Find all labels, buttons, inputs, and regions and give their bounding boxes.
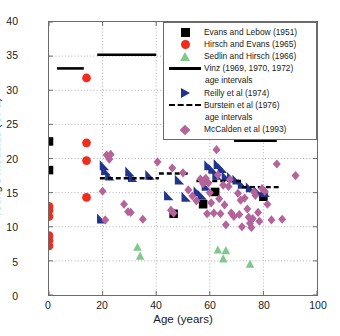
data-point [168, 163, 176, 172]
data-point [203, 209, 211, 218]
legend-entry-7: age intervals [166, 111, 313, 123]
legend-key-triangle-right-icon [166, 87, 204, 99]
data-point [133, 243, 142, 251]
chart-legend: Evans and Lebow (1951)Hirsch and Evans (… [163, 22, 317, 140]
legend-label: Burstein et al (1976) [204, 101, 279, 110]
legend-entry-3: Vinz (1969, 1970, 1972) [166, 63, 313, 75]
chart-figure: Young's modulus (GPa) 0510152025303540 0… [0, 0, 340, 336]
data-point [214, 245, 223, 253]
legend-swatch [181, 40, 190, 49]
data-point [139, 215, 147, 224]
legend-key-triangle-up-icon [166, 50, 204, 62]
x-tick-60: 60 [204, 299, 216, 311]
y-tick-25: 25 [6, 118, 18, 130]
series-triangle-up [133, 243, 254, 268]
data-point [267, 215, 275, 224]
legend-label: Reilly et al (1974) [204, 89, 269, 98]
x-tick-0: 0 [45, 299, 51, 311]
data-point [254, 208, 262, 217]
data-point [218, 163, 227, 173]
legend-entry-4: age intervals [166, 75, 313, 87]
data-point [82, 193, 91, 202]
legend-label: McCalden et al (1993) [204, 125, 286, 134]
legend-swatch [169, 104, 201, 106]
y-axis-label: Young's modulus (GPa) [0, 58, 2, 258]
data-point [164, 190, 173, 200]
data-point [136, 252, 145, 260]
y-tick-30: 30 [6, 84, 18, 96]
data-point [99, 187, 107, 196]
data-point [179, 168, 187, 177]
y-tick-40: 40 [6, 15, 18, 27]
y-tick-15: 15 [6, 187, 18, 199]
data-point [292, 171, 300, 180]
legend-label: age intervals [204, 113, 253, 122]
data-point [263, 200, 271, 209]
legend-key-solid-line-icon [166, 63, 204, 75]
data-point [210, 209, 218, 218]
data-point [213, 145, 221, 154]
legend-swatch [180, 124, 191, 135]
data-point [120, 200, 128, 209]
data-point [217, 209, 225, 218]
data-point [49, 241, 53, 250]
x-axis-label: Age (years) [153, 313, 212, 325]
legend-key-diamond-icon [166, 124, 204, 136]
legend-label: Evans and Lebow (1951) [204, 28, 297, 37]
legend-key-square-icon [166, 26, 204, 38]
data-point [222, 246, 231, 254]
data-point [238, 222, 246, 231]
legend-swatch [181, 88, 190, 98]
data-point [82, 74, 91, 83]
x-tick-20: 20 [96, 299, 108, 311]
data-point [219, 254, 228, 262]
y-tick-10: 10 [6, 221, 18, 233]
legend-swatch [169, 67, 201, 69]
y-tick-35: 35 [6, 49, 18, 61]
data-point [207, 198, 215, 207]
legend-label: age intervals [204, 76, 253, 85]
data-point [255, 217, 263, 226]
data-point [243, 204, 251, 213]
series-circle [49, 74, 91, 251]
data-point [225, 182, 233, 191]
x-tick-100: 100 [309, 299, 327, 311]
y-tick-5: 5 [12, 256, 18, 268]
y-tick-0: 0 [12, 290, 18, 302]
legend-entry-2: Sedlin and Hirsch (1966) [166, 50, 313, 62]
legend-entry-5: Reilly et al (1974) [166, 87, 313, 99]
legend-label: Vinz (1969, 1970, 1972) [204, 64, 293, 73]
legend-label: Hirsch and Evans (1965) [204, 40, 296, 49]
data-point [273, 159, 281, 168]
data-point [222, 220, 230, 229]
legend-entry-8: McCalden et al (1993) [166, 124, 313, 136]
legend-entry-6: Burstein et al (1976) [166, 99, 313, 111]
legend-swatch [180, 52, 190, 61]
data-point [82, 138, 91, 147]
series-triangle-right [97, 159, 270, 224]
y-tick-20: 20 [6, 153, 18, 165]
data-point [199, 200, 208, 209]
legend-swatch [181, 28, 190, 37]
legend-label: Sedlin and Hirsch (1966) [204, 52, 296, 61]
legend-key-circle-icon [166, 38, 204, 50]
data-point [49, 212, 53, 221]
data-point [198, 190, 207, 200]
data-point [278, 215, 286, 224]
data-point [221, 200, 229, 209]
legend-entry-1: Hirsch and Evans (1965) [166, 38, 313, 50]
x-tick-40: 40 [150, 299, 162, 311]
series-diamond [99, 145, 300, 232]
x-tick-80: 80 [258, 299, 270, 311]
data-point [49, 137, 53, 146]
legend-entry-0: Evans and Lebow (1951) [166, 26, 313, 38]
data-point [82, 156, 91, 165]
data-point [49, 166, 53, 175]
legend-key-dashed-line-icon [166, 99, 204, 111]
